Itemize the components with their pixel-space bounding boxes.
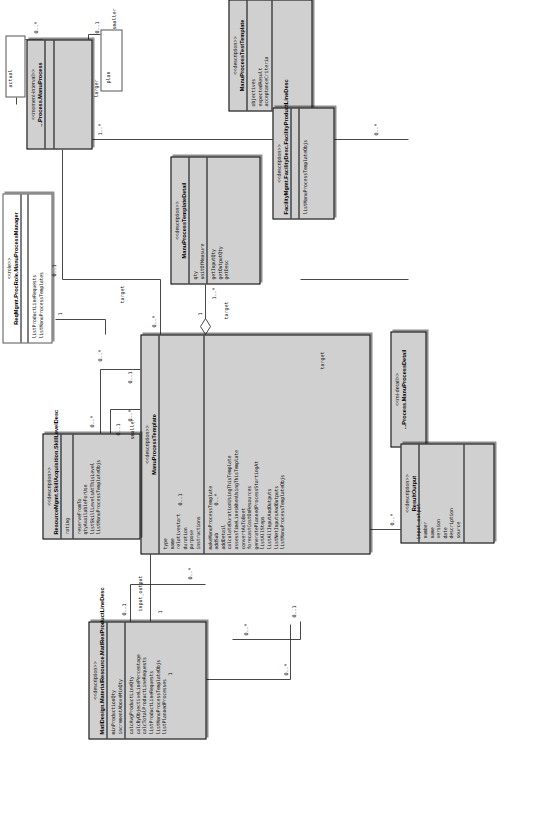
operation: calculateDurationUsingThisTemplate [225, 339, 232, 549]
diagram-rotated-layer: <<moment-interval>> ...Process.ManuProce… [0, 0, 560, 839]
class-manuprocesstemplate[interactable]: <<description>> ManuProcessTemplate type… [140, 334, 370, 554]
multiplicity: 0..1 [50, 264, 56, 276]
class-stereotype: <<description>> [46, 438, 52, 534]
multiplicity: 0..* [88, 415, 94, 427]
attributes-compartment: minProductionQty incrementAboveMinQty [107, 622, 125, 738]
class-header: <<description>> ResourceMgmt.SkillAcquis… [43, 434, 61, 538]
operations-compartment: listProductLineRequests listManuProcessT… [28, 194, 45, 342]
operations-compartment: reserveFromTo qtyAvailableForUse listSki… [73, 434, 103, 538]
multiplicity: 0..1 [176, 493, 182, 505]
attributes-compartment: qty unitOfMeasure [189, 157, 207, 283]
operation: listProductLineRequests [30, 198, 37, 338]
assoc-class-smaller-box [100, 29, 122, 91]
class-manuprocess[interactable]: <<moment-interval>> ...Process.ManuProce… [26, 39, 92, 149]
class-facilityproductlinedesc[interactable]: <<description>> FacilityMgmt.FacilityDes… [272, 107, 334, 219]
operation: addDetail [219, 339, 226, 549]
link-process-template [62, 149, 160, 334]
multiplicity: 1 [156, 610, 162, 613]
attribute: description [447, 448, 454, 538]
attribute: qty [191, 161, 198, 279]
multiplicity: 0..* [150, 315, 156, 327]
operation: forecastCostOnResources [245, 339, 252, 549]
operation: qtyAvailableForUse [81, 438, 88, 534]
class-manuprocesstemplatedetail[interactable]: <<description>> ManuProcessTemplateDetai… [170, 156, 260, 284]
role-label: plan [104, 71, 110, 83]
class-stereotype: <<mi-detail>> [394, 336, 400, 442]
class-name: ...Process.ManuProcess [36, 44, 42, 144]
attributes-compartment: number name version date description sou… [419, 444, 464, 542]
class-stereotype: <<description>> [276, 112, 282, 214]
attribute: type [161, 339, 168, 549]
class-stereotype: <<description>> [92, 626, 98, 734]
multiplicity: 0..* [186, 567, 192, 579]
attributes-compartment [21, 194, 28, 342]
class-name: MatlDesign.MaterialResource.MatlResProdu… [98, 626, 104, 734]
attributes-compartment: rating [61, 434, 73, 538]
operation: calcAvgProductLineQty [127, 626, 134, 734]
attribute: instructions [194, 339, 201, 549]
attribute: relativestart [174, 339, 181, 549]
operation: addSub [212, 339, 219, 549]
multiplicity: 0..* [32, 21, 38, 33]
class-header: <<description>> MatlDesign.MaterialResou… [89, 622, 107, 738]
operations-compartment [54, 40, 62, 148]
attribute: name [428, 448, 435, 538]
operation: listManuProcessTemplateObjs [154, 626, 161, 734]
operation: assessTimeLinesWhenUsingThisTemplate [232, 339, 239, 549]
diamond-template-tpldetail [200, 318, 210, 334]
multiplicity: 1 [166, 672, 172, 675]
class-header: <<description>> ManuProcessTemplateDetai… [171, 157, 189, 283]
class-stereotype: <<description>> [404, 448, 410, 538]
class-skillleveldesc[interactable]: <<description>> ResourceMgmt.SkillAcquis… [42, 433, 140, 539]
class-name: ...Process.ManuProcessDetail [400, 336, 406, 442]
class-header: <<description>> ManuProcessTemplate [141, 335, 159, 553]
class-manuprocessdetail[interactable]: <<mi-detail>> ...Process.ManuProcessDeta… [390, 331, 426, 447]
role-label: input_output [136, 575, 142, 611]
role-label: smaller [110, 8, 116, 29]
attribute: minProductionQty [109, 626, 116, 734]
operation: listNetInputsAndOutputs [272, 339, 279, 549]
operations-compartment [464, 444, 472, 542]
multiplicity: 0..1 [114, 423, 120, 435]
class-header: <<mi-detail>> ...Process.ManuProcessDeta… [391, 332, 408, 446]
multiplicity: 0..* [282, 663, 288, 675]
class-name: FacilityMgmt.FacilityDesc.FacilityProduc… [282, 112, 288, 214]
role-label: actual [6, 69, 12, 87]
class-name: ManuProcessTemplate [150, 339, 156, 549]
attribute: date [441, 448, 448, 538]
role-label: smaller [128, 418, 134, 439]
attribute: acceptanceCriteria [262, 4, 269, 106]
multiplicity: 0..* [96, 349, 102, 361]
attribute: source [454, 448, 461, 538]
attribute: expectedResult [256, 4, 263, 106]
class-header: <<role>> ReqMgmt.ProcRole.ManuProcessMan… [3, 194, 21, 342]
multiplicity: 1..* [96, 123, 102, 135]
operation: listAllSteps [258, 339, 265, 549]
multiplicity: 0..* [212, 493, 218, 505]
operation: listManuProcessTemplates [37, 198, 44, 338]
operation: calcByObjectiveLinePercentage [134, 626, 141, 734]
operations-compartment: listManuProcessTemplateObjs [299, 108, 310, 218]
operation: listAllInputAndOutputs [265, 339, 272, 549]
class-manuprocesstesttemplate[interactable]: <<description>> ManuProcessTestTemplate … [228, 0, 312, 111]
operation: listManuProcessTemplateObjs [278, 339, 285, 549]
attributes-compartment [291, 108, 299, 218]
operation: getDesc [222, 161, 229, 279]
class-name: ManuProcessTemplateDetail [180, 161, 186, 279]
class-matlresproductlinedesc[interactable]: <<description>> MatlDesign.MaterialResou… [88, 621, 206, 739]
multiplicity: 0..* [388, 513, 394, 525]
attribute: incrementAboveMinQty [116, 626, 123, 734]
role-label: input_output [414, 503, 420, 539]
class-manuprocessmanager[interactable]: <<role>> ReqMgmt.ProcRole.ManuProcessMan… [2, 193, 52, 343]
link-manager-template [55, 319, 105, 334]
class-header: <<moment-interval>> ...Process.ManuProce… [27, 40, 45, 148]
operations-compartment: getInputQty getOutputQty getDesc [207, 157, 231, 283]
attribute: rating [63, 438, 70, 534]
operation: listManuProcessTemplateObjs [301, 112, 308, 214]
operation: convertAsToBoet [239, 339, 246, 549]
role-label: target [222, 301, 228, 319]
attributes-compartment: type name relativestart duration purpose… [159, 335, 204, 553]
multiplicity: 0..* [372, 123, 378, 135]
class-stereotype: <<description>> [144, 339, 150, 549]
class-stereotype: <<description>> [174, 161, 180, 279]
